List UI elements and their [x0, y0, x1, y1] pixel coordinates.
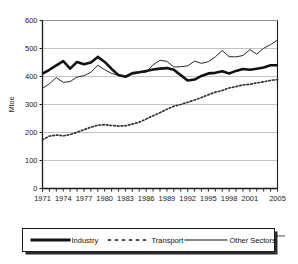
- y-tick-label: 100: [25, 156, 38, 165]
- x-tick-label: 2005: [269, 194, 286, 203]
- y-tick-label: 500: [25, 44, 38, 53]
- x-tick-label: 1989: [159, 194, 176, 203]
- legend-label-transport: Transport: [152, 236, 185, 245]
- line-chart: 0100200300400500600197119741977198019831…: [0, 0, 298, 264]
- x-tick-label: 1986: [138, 194, 155, 203]
- x-axis-labels: 1971197419771980198319861989199219951998…: [34, 194, 286, 203]
- legend-label-other-sectors-footnote: ****: [277, 234, 286, 240]
- x-tick-label: 1998: [221, 194, 238, 203]
- y-axis-title: Mtoe: [8, 97, 15, 113]
- y-axis-ticks: 0100200300400500600: [25, 16, 43, 193]
- x-tick-label: 1995: [200, 194, 217, 203]
- x-tick-label: 1992: [179, 194, 196, 203]
- y-tick-label: 600: [25, 16, 38, 25]
- legend-label-other-sectors: Other Sectors: [230, 236, 277, 245]
- chart-figure: 0100200300400500600197119741977198019831…: [0, 0, 298, 264]
- y-tick-label: 300: [25, 100, 38, 109]
- x-tick-label: 1977: [76, 194, 93, 203]
- x-tick-label: 1980: [96, 194, 113, 203]
- x-tick-label: 1971: [34, 194, 51, 203]
- x-tick-label: 1983: [117, 194, 134, 203]
- y-tick-label: 400: [25, 72, 38, 81]
- y-tick-label: 200: [25, 128, 38, 137]
- legend-label-industry: Industry: [72, 236, 99, 245]
- x-tick-label: 1974: [55, 194, 72, 203]
- y-tick-label: 0: [33, 184, 37, 193]
- x-tick-label: 2001: [242, 194, 259, 203]
